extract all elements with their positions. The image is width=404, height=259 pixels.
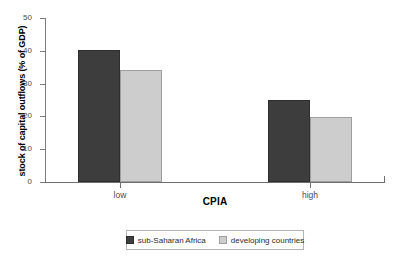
y-tick-0	[40, 182, 45, 183]
chart-legend: sub-Saharan Africa developing countries	[126, 230, 304, 250]
y-tick-label-10: 10	[6, 144, 32, 153]
plot-area: 01020304050 lowhigh	[45, 18, 385, 183]
bar-high-series-0	[268, 100, 310, 182]
y-tick-label-50: 50	[6, 13, 32, 22]
y-tick-label-30: 30	[6, 79, 32, 88]
x-tick-low	[120, 182, 121, 188]
x-axis-end-tick	[384, 176, 385, 183]
y-tick-20	[40, 116, 45, 117]
legend-item-series-1: developing countries	[219, 236, 304, 245]
y-tick-40	[40, 51, 45, 52]
legend-swatch-icon-series-1	[219, 236, 227, 244]
y-axis-title: stock of capital outflows (% of GDP)	[17, 11, 27, 191]
legend-label-series-1: developing countries	[231, 236, 304, 245]
legend-item-series-0: sub-Saharan Africa	[126, 236, 206, 245]
bar-high-series-1	[310, 117, 352, 182]
y-tick-30	[40, 84, 45, 85]
legend-label-series-0: sub-Saharan Africa	[138, 236, 206, 245]
x-axis-line	[45, 182, 385, 183]
y-tick-label-20: 20	[6, 111, 32, 120]
bar-low-series-0	[78, 50, 120, 182]
bar-chart: stock of capital outflows (% of GDP) 010…	[0, 0, 404, 259]
bar-low-series-1	[120, 70, 162, 182]
y-tick-label-40: 40	[6, 46, 32, 55]
y-axis-line	[45, 18, 46, 183]
y-tick-10	[40, 149, 45, 150]
x-tick-high	[310, 182, 311, 188]
x-axis-title: CPIA	[45, 196, 385, 207]
y-tick-label-0: 0	[6, 177, 32, 186]
y-tick-50	[40, 18, 45, 19]
legend-swatch-icon-series-0	[126, 236, 134, 244]
